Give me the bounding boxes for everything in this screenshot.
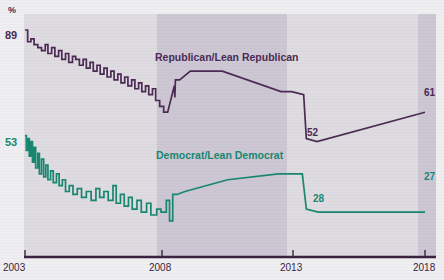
x-axis-label-2008: 2008 (149, 262, 171, 273)
x-axis-label-2013: 2013 (280, 262, 302, 273)
republican-end-value-label: 61 (424, 88, 435, 98)
percent-symbol-label: % (8, 6, 16, 15)
democrat-series-label: Democrat/Lean Democrat (156, 150, 283, 161)
plot-svg (0, 0, 444, 280)
republican-series-label: Republican/Lean Republican (155, 52, 299, 63)
democrat-dip-value-label: 28 (313, 194, 324, 204)
democrat-start-value-label: 53 (5, 137, 17, 148)
democrat-end-value-label: 27 (424, 172, 435, 182)
republican-dip-value-label: 52 (307, 128, 318, 138)
x-axis-label-2018: 2018 (413, 262, 435, 273)
x-axis-label-2003: 2003 (3, 262, 25, 273)
chart-container: % 89 53 52 28 61 27 Republican/Lean Repu… (0, 0, 444, 280)
republican-line (25, 30, 425, 142)
republican-start-value-label: 89 (5, 30, 17, 41)
